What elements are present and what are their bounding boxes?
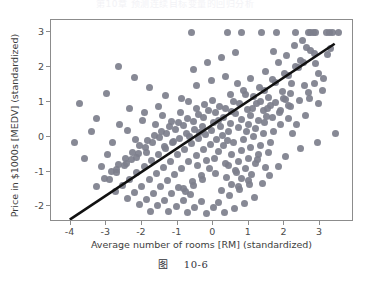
y-tick-label: 0 (0, 130, 44, 141)
x-tick-mark (177, 221, 178, 225)
x-tick-label: 0 (209, 226, 215, 237)
x-tick-mark (248, 221, 249, 225)
x-tick-label: -1 (172, 226, 181, 237)
y-tick-mark (46, 136, 50, 137)
x-tick-mark (319, 221, 320, 225)
x-tick-label: -2 (136, 226, 145, 237)
y-tick-label: 1 (0, 95, 44, 106)
x-tick-label: -3 (101, 226, 110, 237)
y-tick-label: 3 (0, 26, 44, 37)
y-tick-label: -2 (0, 200, 44, 211)
plot-area (50, 19, 353, 221)
x-tick-mark (212, 221, 213, 225)
y-tick-mark (46, 171, 50, 172)
caption-number: 10-6 (184, 259, 208, 270)
caption-label: 图 (158, 259, 169, 270)
figure-container: -4-3-2-10123-2-10123 Average number of r… (0, 8, 366, 248)
x-axis-label: Average number of rooms [RM] (standardiz… (50, 239, 353, 250)
y-axis-label: Price in $1000s [MEDV] (standardized) (9, 26, 20, 226)
y-tick-label: -1 (0, 165, 44, 176)
x-tick-mark (105, 221, 106, 225)
y-tick-mark (46, 205, 50, 206)
page-header-text: 第10章 预测连续目标变量的回归分析 (96, 0, 364, 8)
y-tick-mark (46, 101, 50, 102)
x-tick-label: 1 (245, 226, 251, 237)
y-tick-mark (46, 31, 50, 32)
x-tick-label: 3 (316, 226, 322, 237)
x-tick-mark (283, 221, 284, 225)
y-tick-label: 2 (0, 61, 44, 72)
x-tick-mark (70, 221, 71, 225)
x-tick-mark (141, 221, 142, 225)
figure-caption: 图 10-6 (0, 256, 366, 271)
y-tick-mark (46, 66, 50, 67)
x-tick-label: -4 (65, 226, 74, 237)
x-tick-label: 2 (280, 226, 286, 237)
regression-line (51, 20, 352, 220)
